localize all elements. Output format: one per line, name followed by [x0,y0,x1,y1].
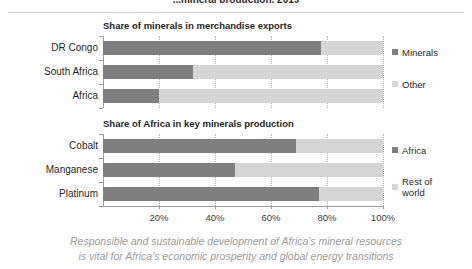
x-axis-label: 100% [363,212,403,223]
legend-swatch-icon [392,184,398,190]
x-axis-line [103,206,384,207]
x-axis-tick [215,206,216,209]
legend-label: Other [402,79,426,90]
legend-label: Minerals [402,47,438,58]
bar-row [103,187,383,201]
bar-segment-africa [103,139,296,153]
x-axis-tick [327,206,328,209]
category-label-manganese: Manganese [0,164,98,175]
legend-swatch-icon [392,147,398,153]
bar-segment-africa [103,163,235,177]
chart1-title: Share of minerals in merchandise exports [103,20,292,31]
bar-row [103,89,383,103]
y-axis-tick [99,182,103,183]
y-axis-tick [99,60,103,61]
bar-row [103,41,383,55]
legend-swatch-icon [392,81,398,87]
page-title: ...mineral production, 2019 [0,0,472,3]
y-axis-tick [99,158,103,159]
bar-segment-other [193,65,383,79]
x-axis-tick [383,206,384,209]
category-label-platinum: Platinum [0,188,98,199]
category-label-cobalt: Cobalt [0,140,98,151]
legend-label: Rest of world [402,176,448,198]
legend-item-africa[interactable]: Africa [392,144,426,156]
bar-segment-minerals [103,89,159,103]
y-axis-tick [99,134,103,135]
legend-item-other[interactable]: Other [392,78,426,90]
y-axis-tick [99,108,103,109]
gridline [383,36,384,108]
x-axis-label: 20% [139,212,179,223]
bar-segment-africa [103,187,319,201]
figure-caption: Responsible and sustainable development … [0,234,472,264]
y-axis-tick [99,36,103,37]
caption-line-1: Responsible and sustainable development … [0,234,472,249]
chart2-title: Share of Africa in key minerals producti… [103,118,294,129]
x-axis-label: 40% [195,212,235,223]
legend-label: Africa [402,145,426,156]
x-axis-label: 80% [307,212,347,223]
category-label-africa: Africa [0,90,98,101]
bar-segment-other [159,89,383,103]
caption-line-2: is vital for Africa's economic prosperit… [0,249,472,264]
category-label-dr-congo: DR Congo [0,42,98,53]
legend: MineralsOther [392,46,470,118]
bar-segment-minerals [103,65,193,79]
bar-segment-other [321,41,383,55]
category-label-south-africa: South Africa [0,66,98,77]
bar-row [103,163,383,177]
legend-swatch-icon [392,49,398,55]
chart2-plot-area [103,134,383,206]
legend-item-minerals[interactable]: Minerals [392,46,438,58]
bar-row [103,139,383,153]
gridline [383,134,384,206]
bar-segment-rest-of-world [319,187,383,201]
x-axis-tick [271,206,272,209]
x-axis-label: 60% [251,212,291,223]
header-divider [8,12,464,13]
bar-segment-rest-of-world [235,163,383,177]
y-axis-tick [99,84,103,85]
x-axis-tick [159,206,160,209]
bar-segment-rest-of-world [296,139,383,153]
bar-row [103,65,383,79]
legend-item-rest-of-world[interactable]: Rest of world [392,176,448,198]
bar-segment-minerals [103,41,321,55]
chart1-plot-area [103,36,383,108]
legend: AfricaRest of world [392,144,470,216]
